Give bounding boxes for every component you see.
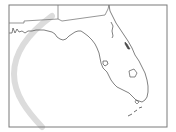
- florida-map: [0, 0, 176, 132]
- map-canvas: [0, 0, 176, 132]
